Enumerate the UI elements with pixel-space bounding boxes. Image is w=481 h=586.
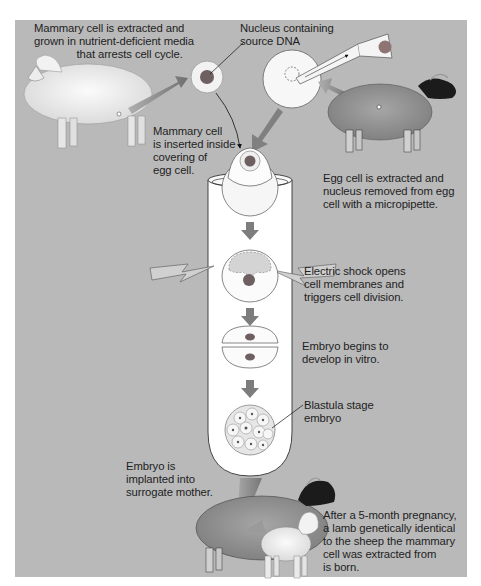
label-embryo-develops: Embryo begins to develop in vitro.	[302, 340, 388, 366]
label-implanted: Embryo is implanted into surrogate mothe…	[126, 460, 213, 499]
label-mammary-extracted: Mammary cell is extracted and grown in n…	[34, 22, 194, 61]
label-mammary-inserted: Mammary cell is inserted inside covering…	[153, 125, 235, 177]
mammary-cell-illustration	[191, 61, 223, 93]
donor-sheep-illustration	[24, 55, 152, 148]
shocked-cell-illustration	[222, 250, 278, 302]
nucleus-leader-line	[210, 42, 244, 74]
lightning-bolt-left-icon	[150, 264, 214, 282]
arrow-egg-to-tube	[252, 108, 283, 152]
blastula-illustration	[225, 405, 275, 455]
label-blastula: Blastula stage embryo	[304, 399, 374, 425]
label-born: After a 5-month pregnancy, a lamb geneti…	[323, 509, 456, 574]
egg-donor-sheep-illustration	[328, 74, 456, 152]
label-electric-shock: Electric shock opens cell membranes and …	[304, 265, 406, 304]
label-egg-extracted: Egg cell is extracted and nucleus remove…	[323, 172, 454, 211]
label-nucleus-source: Nucleus containing source DNA	[240, 22, 334, 48]
two-cell-embryo-illustration	[222, 326, 278, 368]
cloning-illustration	[0, 0, 481, 586]
